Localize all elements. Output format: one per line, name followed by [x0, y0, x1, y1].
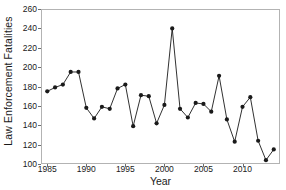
y-axis-tick-label: 160	[23, 102, 37, 111]
x-axis-tick-mark	[164, 164, 165, 167]
x-axis-tick-mark	[243, 164, 244, 167]
data-point	[225, 117, 229, 121]
data-point	[233, 140, 237, 144]
y-axis-tick-label: 220	[23, 44, 37, 53]
data-point	[272, 147, 276, 151]
y-axis-tick-label: 140	[23, 121, 37, 130]
data-point	[115, 86, 119, 90]
data-point	[162, 103, 166, 107]
data-point	[264, 158, 268, 162]
data-point	[217, 74, 221, 78]
data-point	[147, 94, 151, 98]
x-axis-tick-mark	[203, 164, 204, 167]
data-point	[154, 121, 158, 125]
data-point	[256, 139, 260, 143]
data-point	[131, 124, 135, 128]
series-markers	[45, 26, 276, 162]
plot-series-layer	[41, 9, 280, 164]
data-point	[248, 95, 252, 99]
data-point	[108, 107, 112, 111]
data-point	[170, 26, 174, 30]
data-point	[61, 82, 65, 86]
series-line	[47, 28, 274, 160]
y-axis-tick-labels: 100120140160180200220240260	[14, 0, 40, 170]
data-point	[201, 102, 205, 106]
data-point	[209, 110, 213, 114]
data-point	[100, 105, 104, 109]
data-point	[53, 85, 57, 89]
x-axis-tick-mark	[47, 164, 48, 167]
data-point	[76, 70, 80, 74]
x-axis-tick-mark	[125, 164, 126, 167]
data-point	[45, 89, 49, 93]
line-chart: Law Enforcement Fatalities 1001201401601…	[0, 0, 286, 190]
data-point	[194, 101, 198, 105]
data-point	[84, 106, 88, 110]
data-point	[178, 107, 182, 111]
y-axis-tick-label: 180	[23, 82, 37, 91]
data-point	[139, 93, 143, 97]
x-axis-tick-mark	[86, 164, 87, 167]
x-axis-title: Year	[41, 175, 280, 187]
data-point	[123, 82, 127, 86]
data-point	[69, 70, 73, 74]
data-point	[186, 115, 190, 119]
data-point	[240, 105, 244, 109]
y-axis-title-text: Law Enforcement Fatalities	[2, 16, 14, 145]
y-axis-tick-label: 100	[23, 160, 37, 169]
data-point	[92, 116, 96, 120]
y-axis-tick-label: 240	[23, 24, 37, 33]
y-axis-tick-label: 120	[23, 140, 37, 149]
y-axis-tick-label: 200	[23, 63, 37, 72]
y-axis-tick-label: 260	[23, 5, 37, 14]
